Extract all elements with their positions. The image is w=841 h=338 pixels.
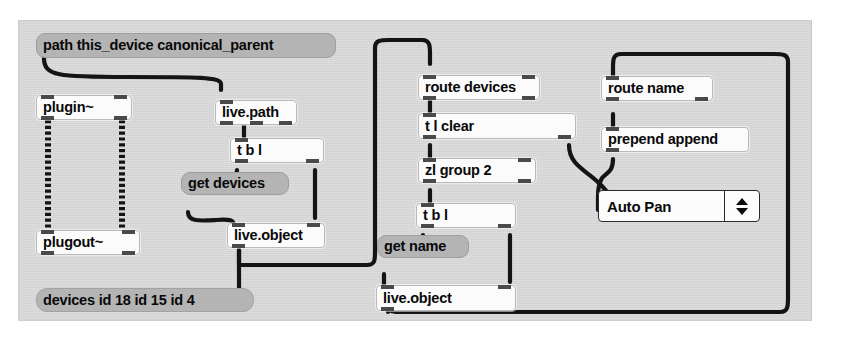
object-box-live-object-mid[interactable]: live.object: [376, 285, 516, 311]
outlet-nub: [114, 116, 127, 120]
inlet-nub: [606, 76, 619, 80]
outlet-nub: [695, 97, 708, 101]
patch-cord-layer: [18, 20, 812, 321]
outlet-nub: [220, 121, 233, 125]
object-box-plugin[interactable]: plugin~: [36, 95, 132, 120]
outlet-nub: [423, 135, 436, 139]
object-label: t l clear: [419, 119, 474, 134]
max-patcher-canvas[interactable]: path this_device canonical_parent plugin…: [18, 20, 812, 321]
message-box-get-devices[interactable]: get devices: [181, 172, 289, 195]
object-box-t-b-l-left[interactable]: t b l: [230, 138, 324, 163]
outlet-nub: [522, 96, 535, 100]
message-label: path this_device canonical_parent: [37, 38, 273, 53]
inlet-nub: [522, 75, 535, 79]
outlet-nub: [423, 179, 436, 183]
object-label: live.object: [228, 228, 303, 243]
object-label: t b l: [417, 208, 448, 223]
message-box-path-this-device[interactable]: path this_device canonical_parent: [36, 33, 336, 58]
outlet-nub: [423, 96, 436, 100]
outlet-nub: [232, 244, 245, 248]
chevron-up-icon: [736, 198, 748, 205]
outlet-nub: [235, 159, 248, 163]
inlet-nub: [421, 203, 434, 207]
object-box-plugout[interactable]: plugout~: [36, 230, 140, 255]
outlet-nub: [421, 224, 434, 228]
object-label: route name: [602, 81, 684, 96]
object-box-t-l-clear[interactable]: t l clear: [418, 113, 576, 139]
screenshot-root: path this_device canonical_parent plugin…: [0, 0, 841, 338]
inlet-nub: [307, 223, 320, 227]
object-label: live.path: [216, 105, 279, 120]
object-box-live-path[interactable]: live.path: [215, 100, 297, 125]
object-label: zl group 2: [419, 163, 491, 178]
outlet-nub: [41, 116, 54, 120]
inlet-nub: [423, 75, 436, 79]
object-box-zl-group[interactable]: zl group 2: [418, 158, 536, 183]
object-label: route devices: [419, 80, 516, 95]
object-box-prepend-append[interactable]: prepend append: [601, 127, 749, 152]
inlet-nub: [606, 127, 619, 131]
inlet-nub: [220, 100, 233, 104]
inlet-nub: [122, 230, 135, 234]
object-label: t b l: [231, 143, 262, 158]
message-label: get devices: [182, 176, 265, 191]
outlet-nub: [41, 251, 54, 255]
outlet-nub: [279, 121, 292, 125]
inlet-nub: [41, 95, 54, 99]
inlet-nub: [114, 95, 127, 99]
inlet-nub: [381, 285, 394, 289]
outlet-nub: [606, 148, 619, 152]
umenu-arrows[interactable]: [724, 191, 759, 221]
inlet-nub: [498, 285, 511, 289]
comment-label: devices id 18 id 15 id 4: [37, 293, 195, 308]
inlet-nub: [423, 113, 436, 117]
object-box-t-b-l-mid[interactable]: t b l: [416, 203, 516, 228]
message-label: get name: [378, 239, 446, 254]
outlet-nub: [498, 224, 511, 228]
outlet-nub: [381, 307, 394, 311]
object-box-live-object-left[interactable]: live.object: [227, 223, 325, 248]
object-label: prepend append: [602, 132, 718, 147]
outlet-nub: [122, 251, 135, 255]
outlet-nub: [518, 179, 531, 183]
inlet-nub: [41, 230, 54, 234]
cord-path-to-livepath: [44, 58, 221, 90]
object-label: plugout~: [37, 235, 103, 250]
umenu-device-selector[interactable]: Auto Pan: [598, 190, 760, 222]
object-box-route-devices[interactable]: route devices: [418, 75, 540, 100]
comment-devices-ids: devices id 18 id 15 id 4: [36, 288, 254, 312]
outlet-nub: [558, 135, 571, 139]
umenu-value: Auto Pan: [599, 198, 724, 215]
outlet-nub: [306, 159, 319, 163]
outlet-nub: [606, 97, 619, 101]
inlet-nub: [235, 138, 248, 142]
chevron-down-icon: [736, 208, 748, 215]
object-label: live.object: [377, 291, 452, 306]
outlet-nub: [250, 121, 263, 125]
object-box-route-name[interactable]: route name: [601, 76, 713, 101]
object-label: plugin~: [37, 100, 94, 115]
inlet-nub: [423, 158, 436, 162]
message-box-get-name[interactable]: get name: [377, 235, 469, 258]
inlet-nub: [518, 158, 531, 162]
inlet-nub: [232, 223, 245, 227]
